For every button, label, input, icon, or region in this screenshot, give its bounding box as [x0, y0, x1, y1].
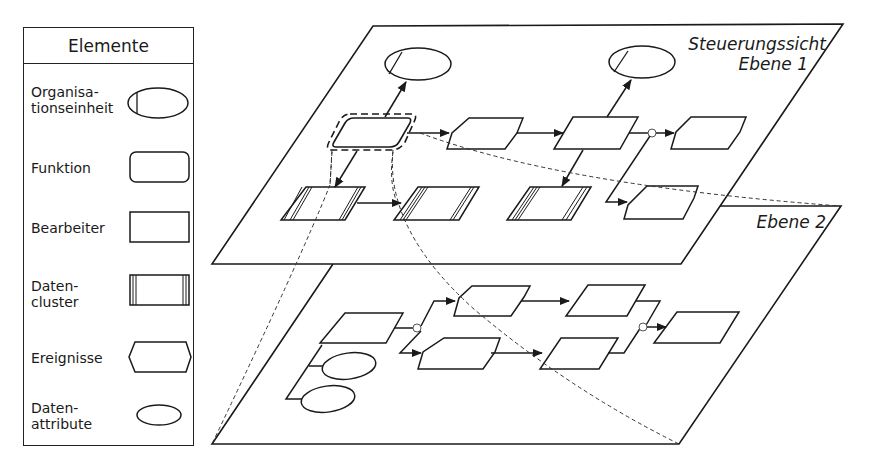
function-node-highlighted — [333, 118, 411, 147]
plane-level-2-label: Ebene 2 — [757, 212, 826, 232]
layered-process-diagram: Ebene 2 Steuerungssicht Ebene 1 — [0, 0, 869, 468]
plane-level-1-subtitle: Ebene 1 — [739, 54, 808, 74]
organisation-unit-node — [609, 46, 675, 78]
plane-level-1-title: Steuerungssicht — [688, 34, 827, 54]
